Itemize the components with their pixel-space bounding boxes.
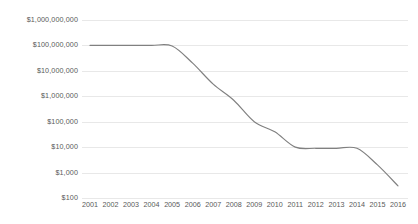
gridline [82, 198, 408, 199]
y-tick-label: $1,000,000,000 [0, 16, 78, 24]
plot-area [82, 20, 408, 198]
y-tick-label: $10,000 [0, 143, 78, 151]
y-tick-label: $10,000,000 [0, 67, 78, 75]
x-tick-label: 2016 [383, 200, 413, 209]
y-tick-label: $100,000,000 [0, 41, 78, 49]
series-line-svg [82, 20, 408, 198]
y-axis: $1,000,000,000$100,000,000$10,000,000$1,… [0, 0, 78, 224]
series-line-path [90, 45, 398, 186]
y-tick-label: $100,000 [0, 118, 78, 126]
y-tick-label: $1,000,000 [0, 92, 78, 100]
y-tick-label: $1,000 [0, 169, 78, 177]
line-chart: $1,000,000,000$100,000,000$10,000,000$1,… [0, 0, 418, 224]
x-axis: 2001200220032004200520062007200820092010… [0, 200, 418, 216]
